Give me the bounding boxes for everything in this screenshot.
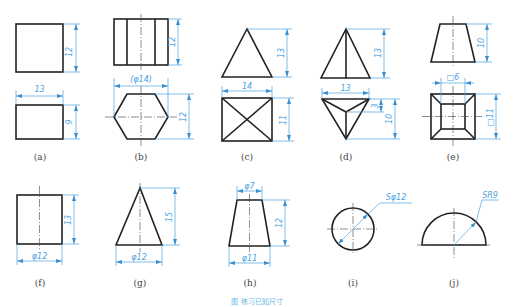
dim-diameter: φ12	[131, 253, 146, 262]
panel-g: 15 φ12 (g)	[116, 183, 180, 288]
panel-j: SR9 (j)	[417, 191, 499, 288]
panel-e: 10 □6 □11 (e)	[422, 16, 501, 162]
dim-height-bottom: 10	[385, 114, 394, 124]
panel-a: 12 13 9 (a)	[16, 24, 80, 162]
dim-square-bottom: □11	[486, 108, 495, 126]
panel-d: 13 13 3 10 (d)	[321, 29, 400, 162]
dim-top-diameter: φ7	[244, 182, 255, 191]
dim-sphere-diameter: Sφ12	[386, 193, 407, 202]
panel-h: φ7 12 φ11 (h)	[229, 182, 290, 288]
panel-label-e: (e)	[447, 152, 459, 162]
panel-f: 13 φ12 (f)	[17, 186, 79, 288]
dim-height-bottom: 9	[65, 119, 74, 124]
panel-label-b: (b)	[135, 152, 148, 162]
dim-across-flats: 12	[179, 112, 188, 122]
dim-sphere-radius: SR9	[482, 191, 498, 200]
panel-b: 12 (φ14) 12 (b)	[105, 14, 194, 162]
dim-height-bottom: 11	[279, 115, 288, 125]
panel-label-d: (d)	[340, 152, 353, 162]
dim-bottom-diameter: φ11	[242, 254, 257, 263]
dim-height: 13	[64, 215, 73, 225]
panel-label-i: (i)	[348, 278, 358, 288]
dim-height-top: 12	[168, 37, 177, 47]
panel-label-c: (c)	[241, 152, 253, 162]
dim-square-top: □6	[447, 73, 460, 82]
rectangle-bottom-view	[16, 105, 63, 139]
dim-height-top: 13	[277, 48, 286, 58]
square-top-view	[16, 24, 63, 72]
dim-offset-small: 3	[371, 103, 380, 108]
dim-width-bottom: 13	[34, 85, 44, 94]
panel-label-f: (f)	[35, 278, 45, 288]
panel-label-j: (j)	[449, 278, 459, 288]
panel-label-h: (h)	[244, 278, 257, 288]
panel-label-g: (g)	[134, 278, 147, 288]
dim-height-top: 10	[477, 38, 486, 48]
cone-front-view	[116, 188, 162, 245]
dim-diameter: φ12	[32, 252, 47, 261]
dim-width-bottom: 14	[242, 82, 252, 91]
dim-height-top: 13	[374, 48, 383, 58]
dim-height: 15	[165, 212, 174, 222]
dim-height-top: 12	[65, 47, 74, 57]
drawing-canvas: 12 13 9 (a) 12 (φ14) 12 (b) 13	[0, 0, 514, 307]
triangle-front-view	[222, 29, 272, 77]
figure-caption: 图 练习已知尺寸	[231, 297, 282, 306]
panel-label-a: (a)	[34, 152, 46, 162]
dim-width-bottom: 13	[340, 84, 350, 93]
dim-across-corners: (φ14)	[130, 75, 152, 84]
dim-height: 12	[275, 218, 284, 228]
panel-i: Sφ12 (i)	[327, 193, 412, 288]
panel-c: 13 14 11 (c)	[222, 29, 294, 162]
